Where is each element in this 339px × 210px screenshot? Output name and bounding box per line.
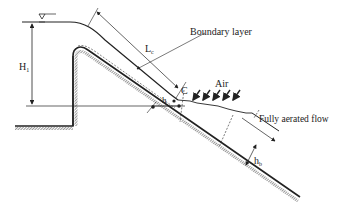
aerated-surface	[178, 100, 252, 113]
lc-label: Lc	[145, 44, 154, 55]
air-arrows	[193, 90, 240, 100]
fully-aerated-flow-label: Fully aerated flow	[259, 115, 329, 125]
h-label: h	[162, 96, 167, 105]
h1-label: H1	[19, 62, 29, 73]
spillway-diagram	[0, 0, 339, 210]
boundary-layer-label: Boundary layer	[190, 27, 252, 37]
air-label: Air	[215, 79, 228, 89]
water-level-icon	[39, 14, 56, 22]
hb-label: hb	[254, 156, 262, 167]
free-surface	[22, 22, 178, 100]
c-label: C	[181, 86, 188, 96]
